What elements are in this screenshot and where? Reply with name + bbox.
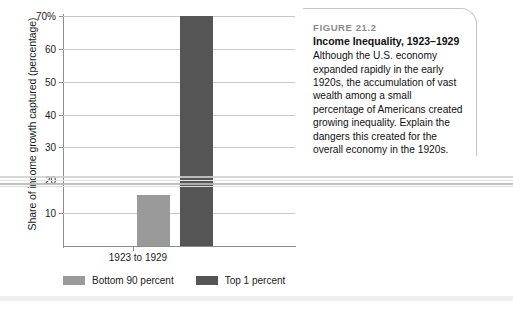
gridline [63,49,295,50]
gridline [63,213,295,214]
bar-chart: Share of income growth captured (percent… [0,0,300,300]
y-axis-tick-mark [59,213,63,214]
y-axis-title: Share of income growth captured (percent… [26,8,38,240]
y-axis-tick-label: 50 [45,76,56,87]
legend-label: Bottom 90 percent [92,275,174,286]
legend-item: Bottom 90 percent [63,275,174,286]
legend-item: Top 1 percent [196,275,286,286]
legend-label: Top 1 percent [225,275,286,286]
gridline [63,180,295,181]
legend-swatch [63,276,85,285]
figure-title: Income Inequality, 1923–1929 [313,35,464,48]
figure-caption-text: Although the U.S. economy expanded rapid… [313,49,464,157]
figure-number-label: FIGURE 21.2 [313,22,464,33]
y-axis-tick-mark [59,82,63,83]
figure-page: Share of income growth captured (percent… [0,0,513,309]
y-axis-tick-mark [59,180,63,181]
bar-top-1-percent [180,16,213,246]
legend-swatch [196,276,218,285]
chart-legend: Bottom 90 percentTop 1 percent [63,275,285,286]
x-axis-line [63,246,296,247]
plot-area: 70%605040302010 [63,16,295,246]
y-axis-tick-mark [59,16,63,17]
gridline [63,147,295,148]
bar-bottom-90-percent [137,195,170,246]
gridline [63,82,295,83]
figure-caption-box: FIGURE 21.2 Income Inequality, 1923–1929… [303,8,477,156]
y-axis-tick-label: 10 [45,208,56,219]
gridline [63,115,295,116]
y-axis-tick-label: 40 [45,109,56,120]
x-axis-tick [133,246,134,251]
y-axis-tick-mark [59,147,63,148]
y-axis-tick-mark [59,115,63,116]
y-axis-tick-label: 70% [36,11,56,22]
y-axis-tick-label: 20 [45,175,56,186]
gridline [63,16,295,17]
y-axis-tick-label: 30 [45,142,56,153]
y-axis-tick-label: 60 [45,43,56,54]
x-axis-label: 1923 to 1929 [63,252,213,263]
y-axis-tick-mark [59,49,63,50]
